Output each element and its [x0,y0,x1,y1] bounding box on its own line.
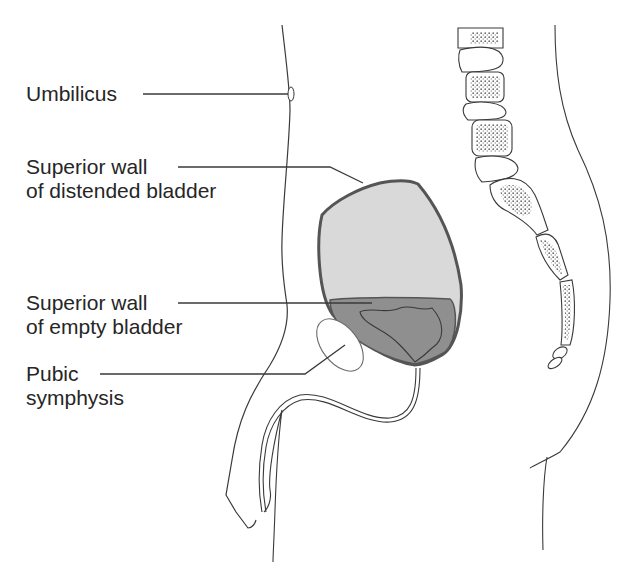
anterior-body-outline [226,25,290,528]
scrotum-outline [264,410,282,562]
label-pubic-symphysis: Pubic symphysis [26,362,124,410]
label-line: of distended bladder [26,179,216,203]
label-umbilicus: Umbilicus [26,82,117,106]
label-line: Superior wall [26,155,216,179]
leader-pubic [100,345,345,374]
label-superior-wall-empty: Superior wall of empty bladder [26,291,182,339]
spine-texture [470,32,498,44]
penis-outline [259,368,416,512]
label-superior-wall-distended: Superior wall of distended bladder [26,155,216,203]
urethra-inner [263,368,420,512]
label-line: of empty bladder [26,315,182,339]
label-line: Pubic [26,362,124,386]
label-line: Superior wall [26,291,182,315]
umbilicus-mark [288,87,294,101]
label-line: symphysis [26,386,124,410]
label-umbilicus-text: Umbilicus [26,82,117,105]
